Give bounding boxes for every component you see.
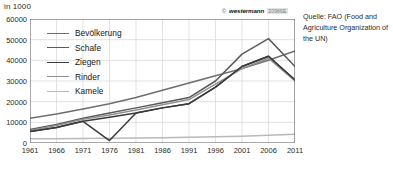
y-axis-tick: 30000 (6, 77, 27, 86)
y-axis-tick: 20000 (6, 97, 27, 106)
chart-page: in 1000 © westermann 20986E Quelle: FAO … (0, 0, 393, 173)
legend-label: Rinder (75, 72, 100, 82)
y-axis-tick: 60000 (6, 15, 27, 24)
x-axis-tick: 1961 (22, 146, 39, 155)
x-axis-tick: 1996 (207, 146, 224, 155)
legend-swatch-icon (47, 76, 69, 77)
legend-item: Ziegen (47, 55, 122, 70)
x-axis-tick: 1986 (154, 146, 171, 155)
publisher-code: 20986E (267, 8, 287, 14)
legend-label: Bevölkerung (75, 28, 122, 38)
x-axis-tick: 1966 (48, 146, 65, 155)
chart-legend: BevölkerungSchafeZiegenRinderKamele (47, 26, 122, 99)
legend-swatch-icon (47, 91, 69, 92)
legend-swatch-icon (47, 33, 69, 34)
x-axis-tick: 2001 (234, 146, 251, 155)
legend-label: Schafe (75, 43, 101, 53)
x-axis-tick: 2011 (287, 146, 303, 155)
source-note: Quelle: FAO (Food and Agriculture Organi… (303, 11, 391, 44)
publisher-name: westermann (229, 7, 264, 14)
copyright-symbol: © (222, 8, 226, 14)
x-axis-tick: 1991 (181, 146, 198, 155)
x-axis-tick: 1971 (75, 146, 92, 155)
legend-swatch-icon (47, 62, 69, 63)
y-axis-labels: 0100002000030000400005000060000 (0, 19, 27, 143)
legend-swatch-icon (47, 47, 69, 48)
x-axis-tick: 2006 (260, 146, 277, 155)
y-axis-unit-label: in 1000 (4, 2, 31, 11)
x-axis-labels: 1961196619711976198119861991199620012006… (30, 146, 295, 160)
legend-item: Kamele (47, 84, 122, 99)
x-axis-tick: 1976 (101, 146, 118, 155)
legend-item: Rinder (47, 70, 122, 85)
legend-item: Bevölkerung (47, 26, 122, 41)
y-axis-tick: 40000 (6, 56, 27, 65)
legend-label: Ziegen (75, 57, 101, 67)
legend-label: Kamele (75, 86, 103, 96)
y-axis-tick: 50000 (6, 35, 27, 44)
legend-item: Schafe (47, 41, 122, 56)
y-axis-tick: 10000 (6, 118, 27, 127)
x-axis-tick: 1981 (128, 146, 145, 155)
copyright-notice: © westermann 20986E (222, 7, 288, 14)
